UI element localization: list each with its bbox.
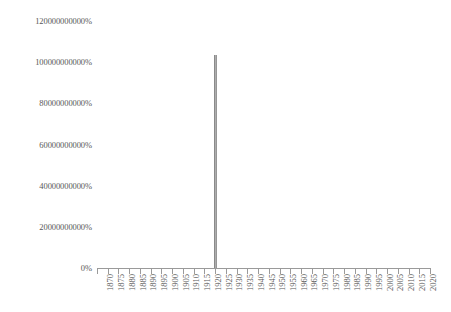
x-tick-label: 2015 [418,274,427,291]
x-tick-label: 1910 [192,274,201,291]
x-tick-label: 1940 [257,274,266,291]
x-tick-label: 1920 [214,274,223,291]
y-tick-label: 0% [0,264,92,273]
x-tick-label: 1885 [139,274,148,291]
x-tick-label: 1930 [235,274,244,291]
x-tick-label: 2020 [429,274,438,291]
x-tick-label: 1935 [246,274,255,291]
y-axis: 120000000000% 100000000000% 80000000000%… [0,0,92,312]
y-tick-label: 80000000000% [0,99,92,108]
x-tick-label: 2000 [386,274,395,291]
x-tick-label: 2010 [407,274,416,291]
x-tick-label: 1870 [106,274,115,291]
y-tick-label: 40000000000% [0,182,92,191]
x-tick-label: 1925 [225,274,234,291]
x-tick-label: 1975 [332,274,341,291]
x-tick-label: 1980 [343,274,352,291]
series-spike [215,55,217,269]
x-tick-label: 1915 [203,274,212,291]
x-tick-label: 1985 [353,274,362,291]
x-tick-label: 1890 [149,274,158,291]
y-tick-label: 20000000000% [0,223,92,232]
y-tick-label: 60000000000% [0,141,92,150]
x-tick-label: 1990 [364,274,373,291]
x-tick-label: 1965 [310,274,319,291]
y-tick-label: 120000000000% [0,17,92,26]
chart-container: 120000000000% 100000000000% 80000000000%… [0,0,451,312]
x-tick-label: 1945 [268,274,277,291]
plot-area [97,22,430,269]
x-tick-label: 1895 [160,274,169,291]
x-tick-label: 1875 [117,274,126,291]
x-tick-label: 1960 [300,274,309,291]
x-tick-label: 1955 [289,274,298,291]
x-tick-label: 1900 [171,274,180,291]
x-tick-label: 1905 [182,274,191,291]
x-tick-label: 2005 [396,274,405,291]
x-tick-label: 1950 [278,274,287,291]
x-tick-label: 1970 [321,274,330,291]
y-tick-label: 100000000000% [0,58,92,67]
x-axis: 1870187518801885189018951900190519101915… [97,274,431,312]
x-tick-label: 1880 [128,274,137,291]
x-tick-label: 1995 [375,274,384,291]
